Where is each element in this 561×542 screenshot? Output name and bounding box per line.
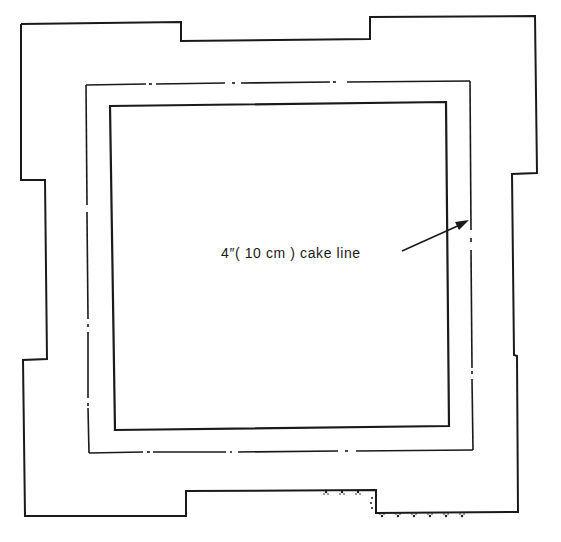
cake-template-diagram bbox=[0, 0, 561, 542]
cake-line-label: 4″( 10 cm ) cake line bbox=[221, 245, 361, 261]
cake-line bbox=[86, 81, 473, 453]
outer-outline bbox=[21, 16, 537, 516]
annotation-arrow bbox=[402, 220, 469, 251]
inner-square bbox=[110, 102, 449, 430]
arrowhead-icon bbox=[455, 220, 469, 230]
